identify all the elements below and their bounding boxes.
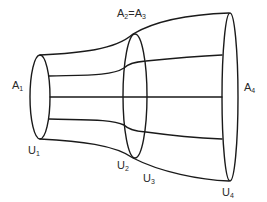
label-a2-equals-a3: A2=A3 [117,8,146,20]
label-a4: A4 [244,82,255,94]
stream-tube-drawing [0,0,267,202]
cross-section-a4 [222,13,238,181]
inner-streamline-upper [49,55,222,76]
label-u4: U4 [222,187,234,199]
stream-tube-diagram: A1 A2=A3 A4 U1 U2 U3 U4 [0,0,267,202]
label-u2: U2 [117,160,129,172]
bottom-boundary-streamline [40,139,229,181]
cross-section-a2-a3 [123,34,147,158]
label-a1: A1 [12,80,23,92]
cross-section-a1 [30,55,50,139]
inner-streamline-lower [49,119,222,139]
label-u1: U1 [28,145,40,157]
label-u3: U3 [143,173,155,185]
